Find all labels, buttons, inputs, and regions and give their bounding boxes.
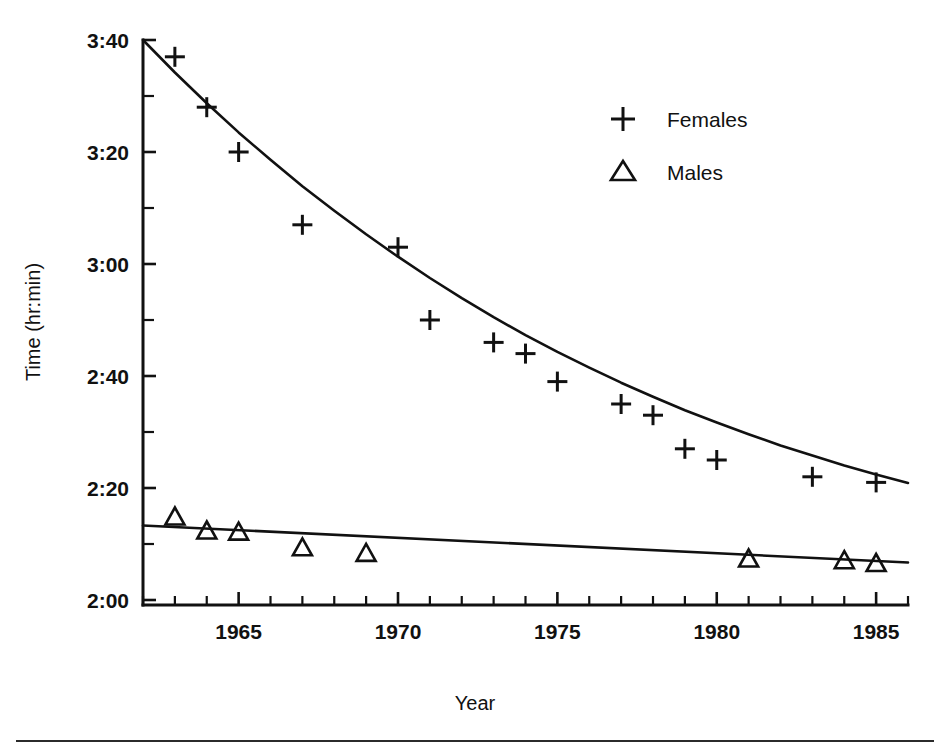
females-data-points — [165, 47, 886, 493]
males-data-points — [165, 508, 885, 572]
data-point-plus — [707, 450, 727, 470]
data-point-triangle — [165, 508, 184, 525]
axes-frame — [143, 40, 908, 605]
chart-legend: Females Males — [611, 107, 748, 184]
y-tick-label: 2:40 — [87, 365, 129, 388]
y-tick-label: 3:20 — [87, 141, 129, 164]
y-tick-label: 3:40 — [87, 29, 129, 52]
data-point-plus — [388, 237, 408, 257]
y-axis-title: Time (hr:min) — [22, 263, 44, 381]
data-point-plus — [611, 394, 631, 414]
x-tick-label: 1975 — [534, 620, 581, 643]
y-tick-label: 2:00 — [87, 589, 129, 612]
legend-label-males: Males — [667, 161, 723, 184]
data-point-triangle — [357, 544, 376, 561]
y-axis-ticks — [143, 40, 156, 600]
data-point-plus — [292, 215, 312, 235]
plus-icon — [611, 107, 635, 131]
data-point-plus — [484, 332, 504, 352]
data-point-plus — [675, 439, 695, 459]
page-footer-rule — [16, 740, 934, 742]
males-fit-line — [143, 526, 908, 563]
x-tick-label: 1980 — [693, 620, 740, 643]
legend-item-males: Males — [611, 161, 723, 184]
data-point-plus — [643, 405, 663, 425]
y-tick-label: 3:00 — [87, 253, 129, 276]
x-axis-tick-labels: 19651970197519801985 — [215, 620, 900, 643]
triangle-icon — [611, 161, 635, 180]
data-point-plus — [197, 97, 217, 117]
y-axis-tick-labels: 3:403:203:002:402:202:00 — [87, 29, 129, 612]
legend-item-females: Females — [611, 107, 748, 131]
data-point-triangle — [739, 550, 758, 567]
chart-canvas: 3:403:203:002:402:202:00 196519701975198… — [0, 0, 950, 752]
x-tick-label: 1965 — [215, 620, 262, 643]
data-point-triangle — [293, 538, 312, 555]
x-tick-label: 1985 — [853, 620, 900, 643]
data-point-plus — [420, 310, 440, 330]
chart-figure: 3:403:203:002:402:202:00 196519701975198… — [0, 0, 950, 752]
x-axis-ticks — [143, 592, 908, 605]
x-axis-title: Year — [455, 692, 496, 714]
data-point-plus — [229, 142, 249, 162]
data-point-plus — [516, 344, 536, 364]
data-point-plus — [547, 372, 567, 392]
y-tick-label: 2:20 — [87, 477, 129, 500]
legend-label-females: Females — [667, 108, 748, 131]
females-fit-curve — [143, 40, 908, 483]
data-point-plus — [802, 467, 822, 487]
x-tick-label: 1970 — [375, 620, 422, 643]
